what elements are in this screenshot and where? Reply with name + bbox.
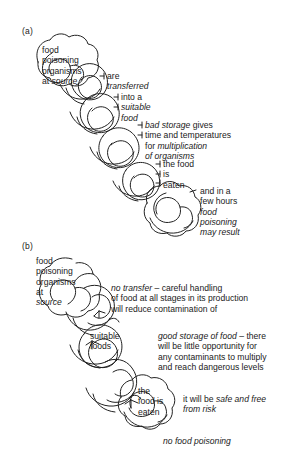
panel-b-label: (b) bbox=[22, 241, 33, 251]
link-a-4-line-1-emphasis: bad storage bbox=[145, 120, 190, 130]
link-b-2-line-1-suffix: – careful handling bbox=[152, 283, 222, 293]
chain-link-b-4-open bbox=[86, 359, 141, 412]
link-a-4-text: bad storage gives time and temperatures … bbox=[145, 120, 231, 161]
link-a-4-line-1-suffix: gives bbox=[190, 120, 212, 130]
link-b-3-line-1: suitable bbox=[90, 331, 120, 341]
link-b-2-line-2: of food at all stages in its production bbox=[111, 293, 248, 303]
link-b-4-line-1-emphasis: good storage of food bbox=[158, 331, 237, 341]
link-b-1-line-4: at bbox=[36, 287, 76, 297]
link-a-4-line-3-emphasis: multiplication bbox=[157, 141, 207, 151]
link-b-5-line-3: eaten bbox=[138, 407, 163, 417]
link-a-2-text: are transferred bbox=[107, 71, 149, 92]
link-a-6-line-4: poisoning bbox=[200, 217, 240, 227]
link-b-1-line-1: food bbox=[36, 256, 76, 266]
link-b-3-line-2: foods bbox=[90, 341, 120, 351]
link-a-4-line-1: bad storage gives bbox=[145, 120, 231, 130]
link-a-3-line-1: into a bbox=[121, 92, 151, 102]
chain-link-a-4 bbox=[90, 128, 139, 169]
link-b-4-text: good storage of food – there will be lit… bbox=[158, 331, 266, 372]
link-a-6-text: and in a few hours food poisoning may re… bbox=[200, 186, 240, 238]
link-b-6-line-2: from risk bbox=[183, 404, 266, 414]
link-a-6-line-1: and in a bbox=[200, 186, 240, 196]
link-b-2-line-3: will reduce contamination of bbox=[111, 304, 248, 314]
link-b-4-line-4: and reach dangerous levels bbox=[158, 362, 266, 372]
link-b-6-line-1: it will be safe and free bbox=[183, 394, 266, 404]
link-b-2-line-1-emphasis: no transfer bbox=[111, 283, 152, 293]
link-a-1-line-4-prefix: at bbox=[42, 76, 52, 86]
link-a-4-line-2: time and temperatures bbox=[145, 130, 231, 140]
link-a-3-line-2: suitable bbox=[121, 102, 151, 112]
link-a-5-line-2: is bbox=[163, 169, 194, 179]
link-a-6-line-3: food bbox=[200, 207, 240, 217]
link-a-6-line-2: few hours bbox=[200, 196, 240, 206]
chain-link-a-5 bbox=[113, 162, 160, 201]
link-b-4-line-1: good storage of food – there bbox=[158, 331, 266, 341]
link-b-6-text: it will be safe and free from risk bbox=[183, 394, 266, 415]
link-a-6-line-5: may result bbox=[200, 227, 240, 237]
link-b-5-line-1: the bbox=[138, 386, 163, 396]
link-b-5-text: the food is eaten bbox=[138, 386, 163, 417]
link-a-2-line-2: transferred bbox=[107, 81, 149, 91]
link-a-4-line-3-prefix: for bbox=[145, 141, 157, 151]
link-b-1-line-3: organisms bbox=[36, 277, 76, 287]
link-b-6-line-1-emphasis: safe and free bbox=[216, 394, 266, 404]
link-b-4-line-3: any contaminants to multiply bbox=[158, 352, 266, 362]
link-b-4-line-2: will be little opportunity for bbox=[158, 341, 266, 351]
link-a-2-line-1: are bbox=[107, 71, 149, 81]
link-a-1-text: food poisoning organisms at source bbox=[42, 45, 82, 86]
link-a-5-line-1: the food bbox=[163, 159, 194, 169]
link-a-1-line-4-emphasis: source bbox=[52, 76, 78, 86]
link-a-1-line-4: at source bbox=[42, 76, 82, 86]
link-a-4-line-3: for multiplication bbox=[145, 141, 231, 151]
figure-canvas: (a) food poisoning organisms at source a… bbox=[0, 0, 286, 466]
link-b-6-line-1-prefix: it will be bbox=[183, 394, 216, 404]
chain-link-a-3 bbox=[70, 94, 119, 134]
link-a-5-text: the food is eaten bbox=[163, 159, 194, 190]
link-b-2-line-1: no transfer – careful handling bbox=[111, 283, 248, 293]
link-a-1-line-2: poisoning bbox=[42, 55, 82, 65]
link-b-2-text: no transfer – careful handling of food a… bbox=[111, 283, 248, 314]
link-a-1-line-3: organisms bbox=[42, 66, 82, 76]
link-b-5-line-2: food is bbox=[138, 396, 163, 406]
link-a-1-line-1: food bbox=[42, 45, 82, 55]
link-b-1-text: food poisoning organisms at source bbox=[36, 256, 76, 308]
link-a-5-line-3: eaten bbox=[163, 180, 194, 190]
panel-a-label: (a) bbox=[22, 26, 33, 36]
panel-b-conclusion: no food poisoning bbox=[163, 436, 231, 446]
link-b-4-line-1-suffix: – there bbox=[237, 331, 266, 341]
link-b-1-line-5: source bbox=[36, 297, 76, 307]
link-b-3-text: suitable foods bbox=[90, 331, 120, 352]
link-a-3-text: into a suitable food bbox=[121, 92, 151, 123]
link-b-1-line-2: poisoning bbox=[36, 266, 76, 276]
